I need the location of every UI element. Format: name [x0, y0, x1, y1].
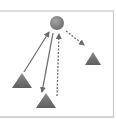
network-diagram [0, 0, 116, 120]
edge-hub-to-bottom [42, 33, 53, 92]
hub-circle-node [50, 16, 64, 30]
diagram-canvas [0, 0, 116, 120]
edge-left-to-hub [24, 32, 49, 72]
bottom-triangle-node [36, 93, 56, 108]
left-triangle-node [12, 73, 32, 88]
edge-hub-to-right-dashed [66, 31, 84, 45]
edge-bottom-to-hub-dashed [57, 34, 59, 96]
right-triangle-node [85, 52, 101, 65]
